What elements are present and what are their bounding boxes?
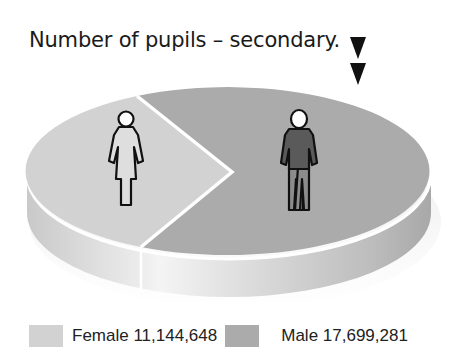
legend-swatch-male xyxy=(225,325,259,347)
legend-item-male: Male 17,699,281 xyxy=(225,325,408,347)
pie-chart xyxy=(0,0,462,351)
legend-item-female: Female 11,144,648 xyxy=(29,325,217,347)
legend-swatch-female xyxy=(29,325,63,347)
legend-label-male: Male 17,699,281 xyxy=(281,326,408,346)
legend: Female 11,144,648 Male 17,699,281 xyxy=(29,325,408,347)
legend-label-female: Female 11,144,648 xyxy=(72,326,217,346)
